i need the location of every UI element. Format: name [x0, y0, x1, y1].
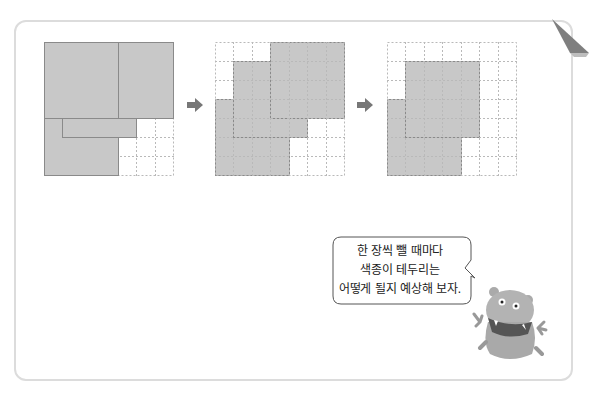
- arrow-right-icon: [187, 98, 203, 112]
- monster-character-icon: [472, 282, 552, 362]
- bubble-line-3: 어떻게 될지 예상해 보자.: [330, 280, 470, 299]
- grid-step-1: [44, 42, 174, 176]
- page-curl-icon: [546, 19, 590, 61]
- speech-bubble-text: 한 장씩 뺄 때마다 색종이 테두리는 어떻게 될지 예상해 보자.: [330, 242, 470, 299]
- grid-step-3: [387, 42, 517, 176]
- bubble-line-2: 색종이 테두리는: [330, 261, 470, 280]
- bubble-line-1: 한 장씩 뺄 때마다: [330, 242, 470, 261]
- arrow-right-icon: [357, 98, 373, 112]
- grid-step-2: [215, 42, 345, 176]
